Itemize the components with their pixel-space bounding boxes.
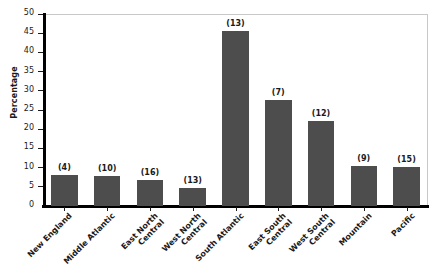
y-tick-label: 40: [24, 46, 34, 55]
bar-group[interactable]: (7): [265, 14, 292, 206]
bar-group[interactable]: (15): [393, 14, 420, 206]
bar-value-label: (7): [272, 88, 285, 97]
x-tick-mark: [150, 207, 151, 211]
y-tick-label: 10: [24, 162, 34, 171]
y-tick-label: 0: [29, 200, 34, 209]
x-tick-mark: [278, 207, 279, 211]
bar-value-label: (13): [183, 176, 201, 185]
bar[interactable]: [222, 31, 249, 206]
bar-value-label: (9): [357, 154, 370, 163]
bar[interactable]: [393, 167, 420, 206]
bar[interactable]: [265, 100, 292, 206]
x-tick-mark: [236, 207, 237, 211]
y-tick-label: 5: [29, 181, 34, 190]
bar[interactable]: [94, 176, 121, 206]
bar[interactable]: [308, 121, 335, 206]
y-tick-label: 35: [24, 66, 34, 75]
bar[interactable]: [351, 166, 378, 206]
x-tick-mark: [193, 207, 194, 211]
y-tick-label: 15: [24, 142, 34, 151]
y-tick-label: 50: [24, 8, 34, 17]
bar-value-label: (10): [98, 164, 116, 173]
y-tick-label: 45: [24, 27, 34, 36]
x-tick-mark: [364, 207, 365, 211]
bar[interactable]: [51, 175, 78, 206]
x-tick-mark: [321, 207, 322, 211]
bar[interactable]: [137, 180, 164, 206]
bar-group[interactable]: (13): [179, 14, 206, 206]
bars-layer: (4)(10)(16)(13)(13)(7)(12)(9)(15): [43, 14, 428, 206]
x-tick-mark: [107, 207, 108, 211]
bar-value-label: (15): [397, 155, 415, 164]
bar-group[interactable]: (9): [351, 14, 378, 206]
y-tick-label: 25: [24, 104, 34, 113]
bar[interactable]: [179, 188, 206, 206]
bar-value-label: (13): [226, 19, 244, 28]
bar-value-label: (16): [141, 168, 159, 177]
y-tick-label: 20: [24, 123, 34, 132]
bar-group[interactable]: (12): [308, 14, 335, 206]
bar-group[interactable]: (4): [51, 14, 78, 206]
bar-group[interactable]: (13): [222, 14, 249, 206]
y-tick-label: 30: [24, 85, 34, 94]
bar-value-label: (12): [312, 109, 330, 118]
y-axis-title: Percentage: [10, 53, 19, 133]
bar-chart: Percentage 05101520253035404550 (4)(10)(…: [0, 0, 445, 276]
x-tick-mark: [64, 207, 65, 211]
x-tick-mark: [407, 207, 408, 211]
bar-group[interactable]: (10): [94, 14, 121, 206]
bar-group[interactable]: (16): [137, 14, 164, 206]
bar-value-label: (4): [58, 163, 71, 172]
